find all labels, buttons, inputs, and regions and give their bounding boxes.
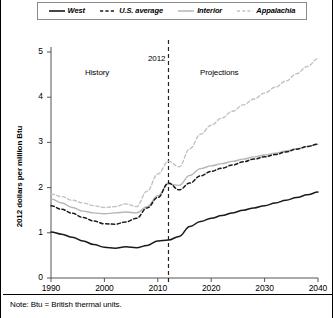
x-tick-label: 2020 [194, 283, 228, 293]
legend-item-interior: Interior [178, 7, 222, 15]
figure-root: West U.S. average Interior [0, 0, 333, 318]
legend-swatch-solid-icon [49, 7, 65, 15]
y-axis-title: 2012 dollars per million Btu [15, 112, 24, 242]
legend-label-appalachia: Appalachia [256, 7, 295, 15]
annotation-projections: Projections [200, 68, 238, 77]
y-tick-label: 5 [29, 46, 43, 56]
legend-label-west: West [68, 7, 85, 15]
legend-item-us-average: U.S. average [100, 7, 163, 15]
chart-canvas [1, 22, 333, 290]
chart-plot-area: 2012 dollars per million Btu History 201… [1, 22, 333, 290]
x-tick-label: 2040 [301, 283, 333, 293]
series-line-appalachia [51, 59, 318, 208]
figure-note: Note: Btu = British thermal units. [10, 300, 122, 309]
x-tick-label: 2030 [248, 283, 282, 293]
y-tick-label: 1 [29, 227, 43, 237]
legend-item-west: West [49, 7, 85, 15]
y-tick-label: 2 [29, 182, 43, 192]
y-tick-label: 3 [29, 136, 43, 146]
x-tick-label: 2010 [141, 283, 175, 293]
chart-legend: West U.S. average Interior [37, 2, 307, 20]
y-tick-label: 4 [29, 91, 43, 101]
y-tick-label: 0 [29, 272, 43, 282]
annotation-history: History [85, 68, 109, 77]
legend-swatch-dashed-icon [100, 7, 116, 15]
note-divider-rule [3, 294, 333, 295]
x-tick-label: 2000 [87, 283, 121, 293]
x-tick-label: 1990 [34, 283, 68, 293]
legend-swatch-gray-solid-icon [178, 7, 194, 15]
legend-label-us-average: U.S. average [119, 7, 163, 15]
legend-item-appalachia: Appalachia [237, 7, 295, 15]
legend-swatch-gray-dashed-icon [237, 7, 253, 15]
annotation-divider-year: 2012 [148, 54, 165, 63]
legend-label-interior: Interior [197, 7, 222, 15]
